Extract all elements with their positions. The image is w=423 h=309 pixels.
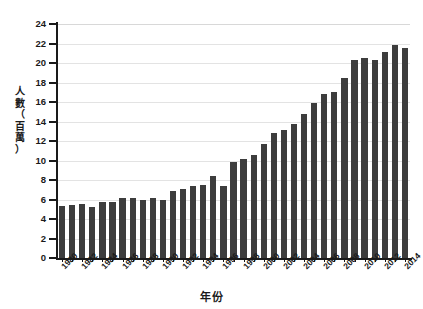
bar	[341, 78, 347, 258]
y-axis-tick	[49, 23, 57, 25]
bar	[271, 133, 277, 258]
bar	[119, 198, 125, 258]
y-axis-tick-label-text: 6	[26, 194, 46, 205]
bar	[382, 52, 388, 258]
x-axis-tick-labels: 1980198219841986198819901992199419961998…	[0, 260, 423, 290]
y-axis-tick	[49, 218, 57, 220]
bar	[281, 130, 287, 258]
x-axis-title: 年份	[0, 288, 423, 304]
bar	[170, 191, 176, 258]
y-axis-tick-label-text: 20	[26, 57, 46, 68]
y-axis-tick	[49, 43, 57, 45]
bar	[130, 198, 136, 258]
y-axis-tick	[49, 62, 57, 64]
bar	[200, 185, 206, 258]
bar	[109, 202, 115, 258]
y-axis-tick	[49, 238, 57, 240]
y-axis-tick-label-text: 22	[26, 38, 46, 49]
y-axis-tick-label-text: 18	[26, 77, 46, 88]
bar	[220, 186, 226, 258]
bar	[402, 48, 408, 258]
bar	[301, 114, 307, 258]
y-axis-tick-label-text: 24	[26, 18, 46, 29]
y-axis-tick-label-text: 16	[26, 96, 46, 107]
bar	[261, 144, 267, 258]
bar	[240, 159, 246, 258]
y-axis-tick-label-text: 4	[26, 213, 46, 224]
y-axis-tick	[49, 140, 57, 142]
y-axis-tick	[49, 199, 57, 201]
bar	[180, 189, 186, 258]
bar	[99, 202, 105, 258]
y-axis-tick-label-text: 10	[26, 155, 46, 166]
bar	[190, 186, 196, 258]
y-axis-tick	[49, 160, 57, 162]
y-axis-tick	[49, 257, 57, 259]
bar-series	[57, 24, 410, 258]
bar	[361, 58, 367, 258]
y-axis-tick	[49, 121, 57, 123]
y-axis-tick-label-text: 14	[26, 116, 46, 127]
bar	[210, 176, 216, 258]
bar	[160, 200, 166, 258]
y-axis-tick	[49, 82, 57, 84]
bar	[59, 206, 65, 258]
bar	[230, 162, 236, 258]
bar-chart: 人 數 （ 百 萬 ） 024681012141618202224 198019…	[0, 0, 423, 309]
bar	[321, 94, 327, 258]
y-axis-tick-label-text: 12	[26, 135, 46, 146]
bar	[291, 124, 297, 258]
bar	[372, 60, 378, 258]
bar	[150, 198, 156, 258]
y-axis-tick	[49, 179, 57, 181]
y-axis-tick-label-text: 8	[26, 174, 46, 185]
bar	[392, 45, 398, 258]
y-axis-tick-label-text: 2	[26, 233, 46, 244]
bar	[351, 60, 357, 258]
bar	[311, 103, 317, 258]
bar	[140, 200, 146, 258]
bar	[251, 155, 257, 258]
y-axis-tick	[49, 101, 57, 103]
bar	[79, 204, 85, 258]
bar	[331, 92, 337, 258]
